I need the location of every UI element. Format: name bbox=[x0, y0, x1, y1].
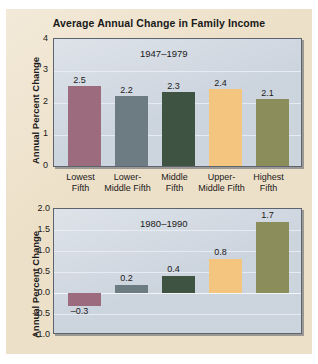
x-tick-line-2: Fifth bbox=[233, 183, 304, 194]
bar-bottom-upper-middle-fifth bbox=[209, 259, 242, 293]
y-tick-top-4: 4 bbox=[28, 33, 48, 43]
bar-value-bottom-3: 0.8 bbox=[198, 247, 243, 257]
period-label-bottom: 1980–1990 bbox=[140, 218, 188, 229]
bar-value-top-0: 2.5 bbox=[57, 75, 102, 85]
y-tick-bottom-5: 1.5 bbox=[24, 224, 50, 234]
bar-top-highest-fifth bbox=[256, 99, 289, 166]
gridline-top-3 bbox=[54, 71, 301, 72]
bar-value-bottom-0: –0.3 bbox=[57, 306, 102, 316]
bar-top-lowest-fifth bbox=[68, 86, 101, 166]
bar-value-bottom-4: 1.7 bbox=[245, 210, 290, 220]
figure-root: Average Annual Change in Family Income A… bbox=[0, 0, 318, 364]
bar-bottom-lower-middle-fifth bbox=[115, 285, 148, 293]
bar-value-bottom-2: 0.4 bbox=[151, 264, 196, 274]
period-label-top: 1947–1979 bbox=[140, 48, 188, 59]
y-tick-bottom-0: –1.0 bbox=[24, 329, 50, 339]
bar-top-middle-fifth bbox=[162, 92, 195, 166]
y-tick-top-2: 2 bbox=[28, 96, 48, 106]
bar-top-upper-middle-fifth bbox=[209, 89, 242, 166]
x-tick-line-1: Highest bbox=[233, 172, 304, 183]
bar-value-top-3: 2.4 bbox=[198, 78, 243, 88]
y-tick-bottom-6: 2.0 bbox=[24, 203, 50, 213]
bar-value-bottom-1: 0.2 bbox=[104, 273, 149, 283]
bar-top-lower-middle-fifth bbox=[115, 96, 148, 166]
y-tick-bottom-1: –0.5 bbox=[24, 308, 50, 318]
figure-title: Average Annual Change in Family Income bbox=[0, 17, 318, 29]
bar-bottom-lowest-fifth bbox=[68, 293, 101, 306]
y-tick-bottom-4: 1.0 bbox=[24, 245, 50, 255]
y-tick-top-0: 0 bbox=[28, 160, 48, 170]
bar-bottom-middle-fifth bbox=[162, 276, 195, 293]
y-tick-top-3: 3 bbox=[28, 64, 48, 74]
y-tick-bottom-3: 0.5 bbox=[24, 266, 50, 276]
y-tick-bottom-2: 0.0 bbox=[24, 287, 50, 297]
bar-value-top-1: 2.2 bbox=[104, 85, 149, 95]
bar-bottom-highest-fifth bbox=[256, 222, 289, 293]
x-tick-highest-fifth: Highest Fifth bbox=[233, 172, 304, 194]
bar-value-top-4: 2.1 bbox=[245, 88, 290, 98]
bar-value-top-2: 2.3 bbox=[151, 81, 196, 91]
y-tick-top-1: 1 bbox=[28, 128, 48, 138]
